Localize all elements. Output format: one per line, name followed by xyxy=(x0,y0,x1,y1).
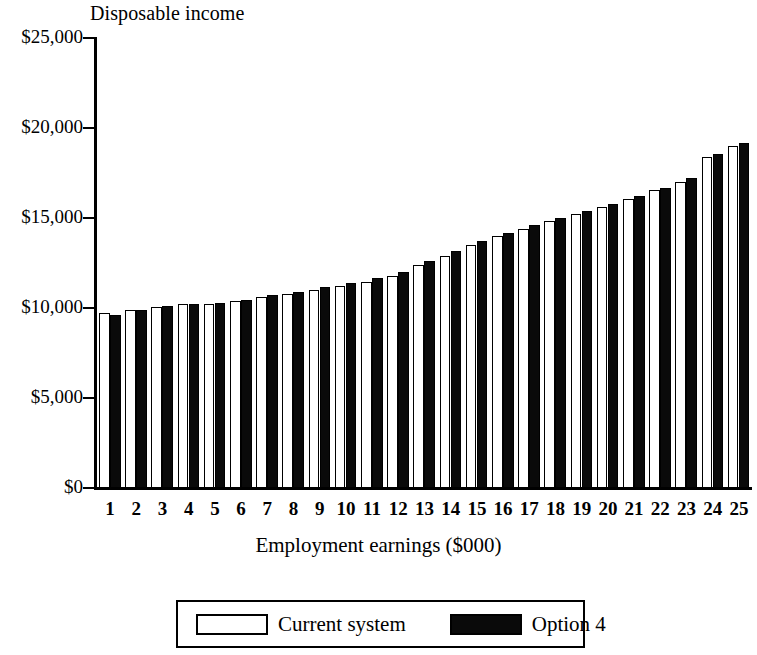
x-axis-title: Employment earnings ($000) xyxy=(0,533,757,558)
bar-option-4 xyxy=(739,143,749,488)
bar-group xyxy=(490,38,516,488)
bar-current-system xyxy=(597,207,607,488)
bar-current-system xyxy=(256,297,266,488)
y-axis-tick-label: $20,000 xyxy=(0,116,83,138)
y-axis-tick xyxy=(83,307,96,309)
bar-current-system xyxy=(230,301,240,488)
bar-option-4 xyxy=(660,188,670,488)
bar-current-system xyxy=(387,276,397,488)
x-axis-tick-label: 25 xyxy=(724,498,754,520)
bar-current-system xyxy=(151,307,161,488)
y-axis-tick xyxy=(83,127,96,129)
bar-option-4 xyxy=(398,272,408,488)
bar-current-system xyxy=(361,282,371,488)
bar-group xyxy=(438,38,464,488)
bar-current-system xyxy=(623,199,633,488)
bar-current-system xyxy=(466,245,476,488)
disposable-income-bar-chart: Disposable income $0$5,000$10,000$15,000… xyxy=(0,0,757,655)
bar-current-system xyxy=(728,146,738,488)
bar-current-system xyxy=(649,190,659,488)
y-axis-title: Disposable income xyxy=(90,2,244,25)
bar-current-system xyxy=(440,256,450,488)
bar-group xyxy=(542,38,568,488)
bar-group xyxy=(228,38,254,488)
plot-area xyxy=(97,38,752,488)
y-axis-tick xyxy=(83,397,96,399)
bar-group xyxy=(333,38,359,488)
bar-option-4 xyxy=(372,278,382,488)
bar-group xyxy=(595,38,621,488)
legend-entry: Current system xyxy=(196,612,406,637)
bar-group xyxy=(359,38,385,488)
y-axis-tick-label: $10,000 xyxy=(0,296,83,318)
bar-option-4 xyxy=(110,315,120,488)
bar-option-4 xyxy=(555,218,565,488)
bar-option-4 xyxy=(320,287,330,488)
bar-current-system xyxy=(518,229,528,488)
y-axis-tick-label: $25,000 xyxy=(0,26,83,48)
bar-option-4 xyxy=(451,251,461,488)
bar-group xyxy=(280,38,306,488)
bar-option-4 xyxy=(503,233,513,488)
bar-option-4 xyxy=(582,211,592,488)
bar-group xyxy=(621,38,647,488)
legend-label: Current system xyxy=(278,612,406,637)
bar-current-system xyxy=(492,236,502,488)
y-axis-tick-label: $15,000 xyxy=(0,206,83,228)
bar-group xyxy=(411,38,437,488)
y-axis-tick xyxy=(83,487,96,489)
bar-option-4 xyxy=(267,295,277,488)
bar-option-4 xyxy=(136,310,146,488)
bar-option-4 xyxy=(293,292,303,488)
bar-group xyxy=(97,38,123,488)
bar-current-system xyxy=(309,290,319,488)
bar-group xyxy=(647,38,673,488)
bar-current-system xyxy=(544,221,554,488)
bar-group xyxy=(176,38,202,488)
bar-option-4 xyxy=(477,241,487,488)
legend-label: Option 4 xyxy=(532,612,606,637)
bar-current-system xyxy=(125,310,135,488)
y-axis-tick xyxy=(83,37,96,39)
bar-group xyxy=(385,38,411,488)
bar-group xyxy=(516,38,542,488)
bar-current-system xyxy=(99,313,109,488)
bar-option-4 xyxy=(215,303,225,488)
bar-option-4 xyxy=(189,304,199,489)
bar-current-system xyxy=(282,294,292,488)
bar-group xyxy=(149,38,175,488)
black-swatch xyxy=(450,614,522,635)
bar-current-system xyxy=(571,214,581,489)
bar-group xyxy=(202,38,228,488)
bar-current-system xyxy=(675,182,685,488)
chart-legend: Current systemOption 4 xyxy=(176,600,585,648)
bar-group xyxy=(700,38,726,488)
legend-entry: Option 4 xyxy=(450,612,606,637)
bar-option-4 xyxy=(241,300,251,488)
bar-option-4 xyxy=(608,204,618,488)
white-swatch xyxy=(196,614,268,635)
bar-option-4 xyxy=(346,283,356,488)
bar-option-4 xyxy=(529,225,539,488)
bar-group xyxy=(123,38,149,488)
bar-option-4 xyxy=(162,306,172,488)
bar-group xyxy=(254,38,280,488)
y-axis-tick-label: $0 xyxy=(0,476,83,498)
bar-option-4 xyxy=(424,261,434,488)
y-axis-tick-label: $5,000 xyxy=(0,386,83,408)
bar-current-system xyxy=(335,286,345,488)
bar-option-4 xyxy=(686,178,696,488)
bar-group xyxy=(569,38,595,488)
bar-current-system xyxy=(178,304,188,488)
bar-group xyxy=(673,38,699,488)
bar-current-system xyxy=(702,157,712,488)
bar-option-4 xyxy=(634,196,644,488)
bar-group xyxy=(726,38,752,488)
bar-option-4 xyxy=(713,154,723,488)
bar-current-system xyxy=(204,304,214,489)
bar-group xyxy=(307,38,333,488)
bar-group xyxy=(464,38,490,488)
bar-current-system xyxy=(413,265,423,488)
y-axis-tick xyxy=(83,217,96,219)
